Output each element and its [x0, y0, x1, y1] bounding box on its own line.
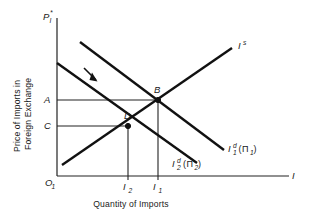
tick-label-I2: I 2 — [123, 181, 133, 194]
supply-curve — [62, 48, 232, 165]
point-D-label: D — [124, 110, 131, 121]
tick-label-C: C — [44, 120, 51, 131]
supply-curve-label-sup: s — [243, 39, 247, 46]
origin-label-sub: 1 — [52, 183, 56, 190]
demand-1-pi: Π — [242, 144, 249, 154]
demand-2-paren-close: ) — [198, 159, 201, 169]
point-B-label: B — [154, 84, 161, 95]
demand-1-paren-close: ) — [254, 144, 257, 154]
demand-1-base: I — [228, 143, 231, 154]
y-axis-symbol: P I * — [43, 9, 53, 25]
y-axis-title: Price of Imports in Foreign Exchange — [12, 78, 33, 152]
point-B-marker — [155, 97, 160, 102]
demand-1-sub: 1 — [233, 149, 237, 156]
supply-curve-label-base: I — [238, 40, 241, 51]
demand-1-sup: d — [233, 142, 237, 149]
x-axis-title: Quantity of Imports — [93, 199, 168, 209]
tick-label-I1-sub: 1 — [159, 187, 163, 194]
tick-label-I2-base: I — [123, 181, 126, 192]
supply-curve-label: I s — [238, 39, 247, 51]
demand-curve-1-label: I 1 d ( Π 1 ) — [228, 142, 257, 157]
y-axis-symbol-sup: * — [50, 9, 53, 16]
point-D-marker — [125, 123, 130, 128]
demand-2-sup: d — [177, 157, 181, 164]
origin-label: O 1 — [45, 177, 56, 190]
economics-diagram: Price of Imports in Foreign Exchange P I… — [0, 0, 315, 214]
tick-label-I1: I 1 — [153, 181, 163, 194]
demand-2-sub: 2 — [176, 164, 181, 171]
y-axis-title-line1: Price of Imports in — [12, 80, 22, 152]
y-axis-title-line2: Foreign Exchange — [23, 78, 33, 150]
y-axis-symbol-sub: I — [50, 17, 52, 24]
demand-2-pi: Π — [187, 159, 194, 169]
demand-curve-2-label: I 2 d ( Π 2 ) — [172, 157, 201, 172]
tick-label-I1-base: I — [153, 181, 156, 192]
shift-arrow — [84, 68, 98, 82]
x-axis-symbol: I — [292, 170, 295, 181]
tick-label-A: A — [43, 94, 50, 105]
demand-2-base: I — [172, 158, 175, 169]
tick-label-I2-sub: 2 — [128, 187, 133, 194]
